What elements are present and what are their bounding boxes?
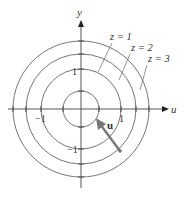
u-axis-arrow-icon — [162, 106, 169, 112]
tick-label-pos-x: 1 — [119, 113, 124, 124]
level-label-z1: z = 1 — [109, 31, 132, 42]
tick-label-neg-y: −1 — [67, 144, 78, 155]
level-label-z3: z = 3 — [147, 53, 170, 64]
tick-label-neg-x: −1 — [35, 113, 46, 124]
vector-tail-point — [118, 149, 122, 153]
y-axis-label: y — [76, 6, 82, 18]
tick-label-pos-y: 1 — [72, 66, 77, 77]
vector-label: u — [107, 119, 113, 131]
level-curves-diagram: y u −1 1 1 −1 z = 1 z = 2 z = 3 u — [0, 0, 186, 201]
y-axis-arrow-icon — [78, 20, 84, 27]
u-axis-label: u — [171, 103, 177, 115]
level-label-z2: z = 2 — [130, 42, 153, 53]
